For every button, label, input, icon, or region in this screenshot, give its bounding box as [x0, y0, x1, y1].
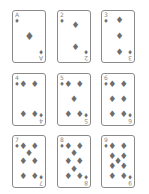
card-corner-index: A♦ — [38, 49, 44, 61]
diamond-pip-icon: ♦ — [71, 21, 80, 30]
card-2-of-diamonds[interactable]: 2♦2♦♦♦ — [57, 10, 91, 63]
card-rank: 4 — [39, 118, 43, 125]
card-corner-index: 2♦ — [59, 12, 65, 24]
diamond-pip-icon: ♦ — [19, 157, 28, 166]
diamond-icon: ♦ — [83, 49, 89, 55]
diamond-pip-icon: ♦ — [30, 157, 39, 166]
card-8-of-diamonds[interactable]: 8♦8♦♦♦♦♦♦♦♦♦ — [57, 135, 91, 188]
diamond-pip-icon: ♦ — [115, 48, 124, 57]
diamond-pip-icon: ♦ — [71, 43, 80, 52]
diamond-pip-icon: ♦ — [19, 80, 28, 89]
card-5-of-diamonds[interactable]: 5♦5♦♦♦♦♦♦ — [57, 73, 91, 126]
card-rank: 9 — [128, 180, 132, 187]
card-rank: 2 — [84, 55, 88, 62]
card-3-of-diamonds[interactable]: 3♦3♦♦♦♦ — [101, 10, 135, 63]
diamond-pip-icon: ♦ — [108, 110, 117, 119]
diamond-pip-icon: ♦ — [108, 95, 117, 104]
diamond-pip-icon: ♦ — [30, 172, 39, 181]
card-corner-index: 2♦ — [83, 49, 89, 61]
diamond-pip-icon: ♦ — [108, 172, 117, 181]
diamond-pip-icon: ♦ — [75, 172, 84, 181]
diamond-pip-icon: ♦ — [19, 110, 28, 119]
diamond-icon: ♦ — [127, 49, 133, 55]
diamond-pip-icon: ♦ — [119, 172, 128, 181]
diamond-pip-icon: ♦ — [108, 80, 117, 89]
card-a-of-diamonds[interactable]: A♦A♦♦ — [12, 10, 46, 63]
card-4-of-diamonds[interactable]: 4♦4♦♦♦♦♦ — [12, 73, 46, 126]
diamond-icon: ♦ — [103, 18, 109, 24]
diamond-icon: ♦ — [59, 18, 65, 24]
diamond-icon: ♦ — [14, 18, 20, 24]
card-rank: 6 — [128, 118, 132, 125]
card-rank: A — [39, 55, 43, 62]
card-7-of-diamonds[interactable]: 7♦7♦♦♦♦♦♦♦♦ — [12, 135, 46, 188]
diamond-pip-icon: ♦ — [75, 80, 84, 89]
diamond-pip-icon: ♦ — [70, 95, 79, 104]
diamond-pip-icon: ♦ — [119, 80, 128, 89]
diamond-pip-icon: ♦ — [119, 162, 128, 171]
diamond-pip-icon: ♦ — [115, 16, 124, 25]
card-rank: 3 — [128, 55, 132, 62]
diamond-pip-icon: ♦ — [64, 172, 73, 181]
diamond-pip-icon: ♦ — [119, 95, 128, 104]
card-rank: 8 — [84, 180, 88, 187]
diamond-pip-icon: ♦ — [119, 110, 128, 119]
diamond-icon: ♦ — [38, 49, 44, 55]
diamond-pip-icon: ♦ — [30, 110, 39, 119]
card-6-of-diamonds[interactable]: 6♦6♦♦♦♦♦♦♦ — [101, 73, 135, 126]
diamond-pip-icon: ♦ — [75, 110, 84, 119]
card-corner-index: 3♦ — [127, 49, 133, 61]
diamond-pip-icon: ♦ — [108, 142, 117, 151]
diamond-pip-icon: ♦ — [64, 80, 73, 89]
card-rank: 5 — [84, 118, 88, 125]
card-corner-index: A♦ — [14, 12, 20, 24]
diamond-pip-icon: ♦ — [119, 142, 128, 151]
diamond-pip-icon: ♦ — [30, 80, 39, 89]
diamond-pip-icon: ♦ — [25, 32, 34, 41]
diamond-pip-icon: ♦ — [64, 110, 73, 119]
card-9-of-diamonds[interactable]: 9♦9♦♦♦♦♦♦♦♦♦♦ — [101, 135, 135, 188]
diamond-pip-icon: ♦ — [108, 162, 117, 171]
diamond-pip-icon: ♦ — [19, 172, 28, 181]
diamond-pip-icon: ♦ — [115, 32, 124, 41]
card-corner-index: 3♦ — [103, 12, 109, 24]
card-rank: 7 — [39, 180, 43, 187]
